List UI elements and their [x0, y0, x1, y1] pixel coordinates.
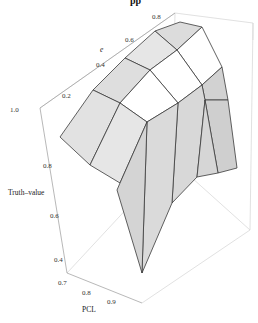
x-tick: 0.9	[107, 298, 116, 306]
surface-mesh	[60, 22, 237, 273]
y-tick: 0.4	[96, 61, 105, 69]
x-axis-ticks: 0.7 0.8 0.9	[58, 279, 116, 306]
z-tick: 0.6	[50, 212, 59, 220]
x-tick: 0.7	[58, 279, 67, 287]
z-axis-label: Truth–value	[8, 188, 45, 197]
z-tick: 0.4	[54, 256, 63, 264]
z-tick: 0.8	[43, 162, 52, 170]
y-axis-label: e	[100, 45, 104, 54]
z-axis-ticks: 1.0 0.8 0.6 0.4	[10, 106, 63, 264]
z-tick: 1.0	[10, 106, 19, 114]
x-axis-label: PCL	[82, 305, 96, 314]
surface-plot: pp 1.0 0.8 0.6 0.4 Truth–value 0.2 0.4 0…	[0, 0, 258, 323]
y-tick: 0.2	[62, 92, 71, 100]
y-tick: 0.6	[125, 36, 134, 44]
x-tick: 0.8	[82, 289, 91, 297]
y-tick: 0.8	[152, 13, 161, 21]
chart-title: pp	[130, 0, 142, 6]
